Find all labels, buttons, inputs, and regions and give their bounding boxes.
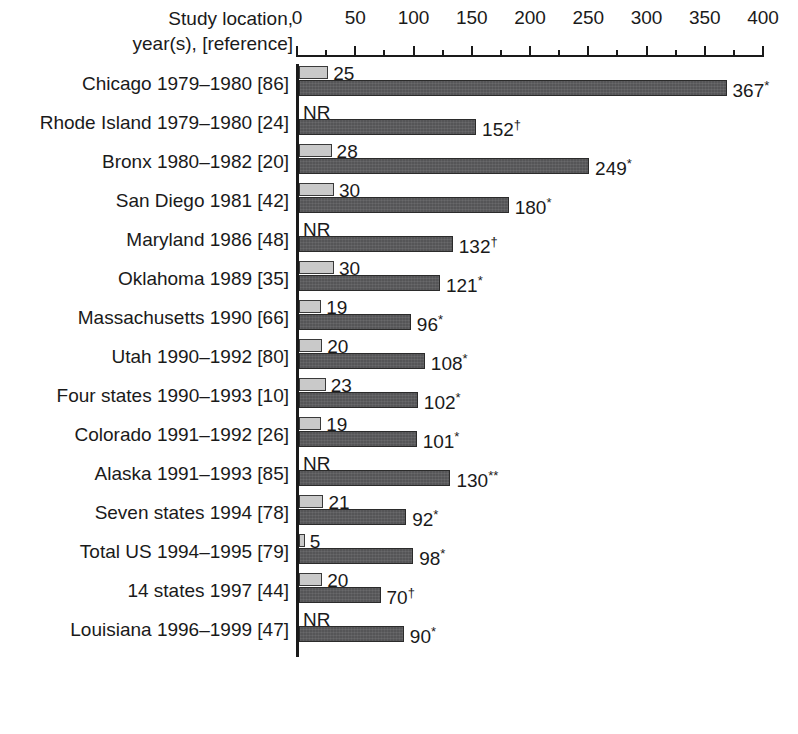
row-label: Chicago 1979–1980 [86] [0,73,289,95]
bar-dark [299,275,440,291]
x-axis-major-tick [471,46,473,57]
x-axis-tick-label: 150 [456,6,488,30]
row-bars: 2070† [299,571,798,610]
row-bars: NR130** [299,454,798,493]
bar-dark [299,470,450,486]
bar-dark-value-number: 96 [417,314,438,335]
bar-light [299,66,328,79]
x-axis-tick-label: 350 [689,6,721,30]
significance-marker: * [463,351,468,366]
bar-dark [299,587,381,603]
row-label: Alaska 1991–1993 [85] [0,463,289,485]
x-axis-minor-tick [733,50,735,57]
x-axis-tick-label: 200 [514,6,546,30]
x-axis-minor-tick [675,50,677,57]
row-bars: 598* [299,532,798,571]
significance-marker: † [490,234,497,249]
significance-marker: * [440,546,445,561]
chart-row: Alaska 1991–1993 [85]NR130** [0,454,798,493]
x-axis-major-tick [646,46,648,57]
row-bars: 30121* [299,259,798,298]
chart-row: San Diego 1981 [42]30180* [0,181,798,220]
bar-light [299,495,323,508]
row-label: 14 states 1997 [44] [0,580,289,602]
x-axis: 050100150200250300350400 [297,6,763,64]
bar-dark-value-label: 102* [424,393,461,412]
significance-marker: * [438,312,443,327]
bar-light [299,183,334,196]
bar-dark-value-number: 152 [482,119,514,140]
bar-dark-value-label: 130** [456,471,498,490]
x-axis-minor-tick [442,50,444,57]
bar-dark-value-number: 108 [431,353,463,374]
x-axis-minor-tick [383,50,385,57]
significance-marker: * [456,390,461,405]
bar-dark-value-number: 92 [412,509,433,530]
significance-marker: * [454,429,459,444]
bar-dark-value-number: 121 [446,275,478,296]
chart-row: Louisiana 1996–1999 [47]NR90* [0,610,798,649]
bar-dark-value-label: 96* [417,315,443,334]
bar-dark-value-label: 180* [515,198,552,217]
bar-dark-value-number: 70 [387,587,408,608]
chart-row: Bronx 1980–1982 [20]28249* [0,142,798,181]
chart-row: 14 states 1997 [44]2070† [0,571,798,610]
chart-row: Colorado 1991–1992 [26]19101* [0,415,798,454]
bar-light [299,261,334,274]
row-bars: 19101* [299,415,798,454]
chart-row: Utah 1990–1992 [80]20108* [0,337,798,376]
x-axis-minor-tick [500,50,502,57]
bar-dark-value-label: 152† [482,120,521,139]
row-label: Oklahoma 1989 [35] [0,268,289,290]
bar-dark-value-number: 367 [733,80,765,101]
bar-dark-value-label: 249* [595,159,632,178]
bar-dark-value-label: 132† [459,237,498,256]
chart-row: Chicago 1979–1980 [86]25367* [0,64,798,103]
row-label: Louisiana 1996–1999 [47] [0,619,289,641]
x-axis-tick-label: 0 [292,6,303,30]
x-axis-minor-tick [616,50,618,57]
bar-dark [299,353,425,369]
horizontal-bar-chart: Study location, year(s), [reference] 050… [0,0,798,734]
bar-dark-value-label: 92* [412,510,438,529]
row-label: Rhode Island 1979–1980 [24] [0,112,289,134]
bar-dark-value-label: 101* [423,432,460,451]
row-bars: 28249* [299,142,798,181]
bar-dark [299,158,589,174]
bar-dark-value-number: 249 [595,158,627,179]
bar-light [299,378,326,391]
x-axis-tick-label: 400 [747,6,779,30]
row-label: San Diego 1981 [42] [0,190,289,212]
chart-row: Seven states 1994 [78]2192* [0,493,798,532]
significance-marker: † [408,585,415,600]
row-bars: 1996* [299,298,798,337]
row-label: Colorado 1991–1992 [26] [0,424,289,446]
row-bars: NR90* [299,610,798,649]
row-label: Maryland 1986 [48] [0,229,289,251]
x-axis-major-tick [354,46,356,57]
bar-dark [299,392,418,408]
bar-dark [299,80,727,96]
row-bars: 2192* [299,493,798,532]
row-bars: NR152† [299,103,798,142]
x-axis-minor-tick [558,50,560,57]
x-axis-major-tick [413,46,415,57]
x-axis-major-tick [529,46,531,57]
x-axis-tick-label: 100 [398,6,430,30]
bar-dark [299,626,404,642]
significance-marker: * [433,507,438,522]
chart-row: Total US 1994–1995 [79]598* [0,532,798,571]
plot-area: Chicago 1979–1980 [86]25367*Rhode Island… [0,64,798,649]
x-axis-tick-label: 50 [345,6,366,30]
x-axis-major-tick [587,46,589,57]
bar-light [299,300,321,313]
significance-marker: † [514,117,521,132]
row-label: Utah 1990–1992 [80] [0,346,289,368]
x-axis-major-tick [296,46,298,57]
row-bars: 25367* [299,64,798,103]
bar-dark [299,548,413,564]
row-label: Four states 1990–1993 [10] [0,385,289,407]
row-bars: 30180* [299,181,798,220]
bar-dark [299,509,406,525]
significance-marker: ** [488,468,498,483]
